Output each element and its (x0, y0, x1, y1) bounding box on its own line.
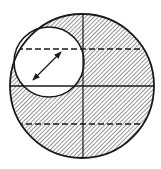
section-diagram (0, 0, 161, 169)
